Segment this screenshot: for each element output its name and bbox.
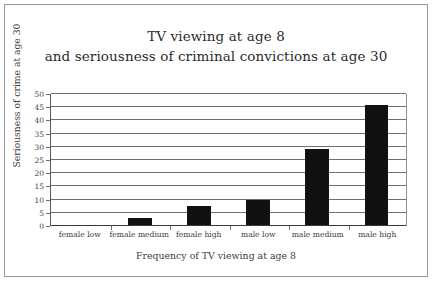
bar-slot: [110, 94, 169, 226]
bar: [187, 206, 211, 226]
bar-slot: [51, 94, 110, 226]
chart-title: TV viewing at age 8 and seriousness of c…: [5, 27, 427, 66]
chart-title-line-1: TV viewing at age 8: [5, 27, 427, 47]
bar-slot: [347, 94, 406, 226]
bar: [246, 200, 270, 226]
x-axis-category-label: male medium: [288, 230, 348, 239]
chart-title-line-2: and seriousness of criminal convictions …: [5, 47, 427, 67]
x-axis-category-label: female high: [169, 230, 229, 239]
y-axis-title: Seriousness of crime at age 30: [11, 1, 22, 191]
x-axis-title: Frequency of TV viewing at age 8: [5, 250, 427, 261]
chart-frame: TV viewing at age 8 and seriousness of c…: [4, 4, 428, 277]
y-axis-tick-label: 50: [28, 90, 44, 99]
y-axis-tick-label: 5: [28, 208, 44, 217]
y-axis-tick-mark: [46, 226, 50, 227]
x-axis-category-labels: female lowfemale mediumfemale highmale l…: [50, 230, 407, 239]
x-axis-category-label: female medium: [110, 230, 170, 239]
plot-area: [50, 94, 407, 226]
bar: [365, 105, 389, 226]
y-axis-tick-label: 35: [28, 129, 44, 138]
x-axis-line: [51, 225, 406, 226]
y-axis-tick-label: 15: [28, 182, 44, 191]
y-axis-tick-label: 20: [28, 169, 44, 178]
bar: [305, 149, 329, 226]
bar-series: [51, 94, 406, 226]
x-axis-category-label: female low: [50, 230, 110, 239]
x-axis-category-label: male high: [348, 230, 408, 239]
x-axis-category-label: male low: [229, 230, 289, 239]
bar-slot: [288, 94, 347, 226]
plot-area-wrapper: [50, 94, 407, 226]
y-axis-tick-label: 25: [28, 156, 44, 165]
bar-slot: [169, 94, 228, 226]
bar-slot: [229, 94, 288, 226]
y-axis-tick-label: 10: [28, 195, 44, 204]
y-axis-tick-label: 40: [28, 116, 44, 125]
y-axis-tick-label: 45: [28, 103, 44, 112]
y-axis-tick-label: 0: [28, 222, 44, 231]
y-axis-tick-label: 30: [28, 142, 44, 151]
